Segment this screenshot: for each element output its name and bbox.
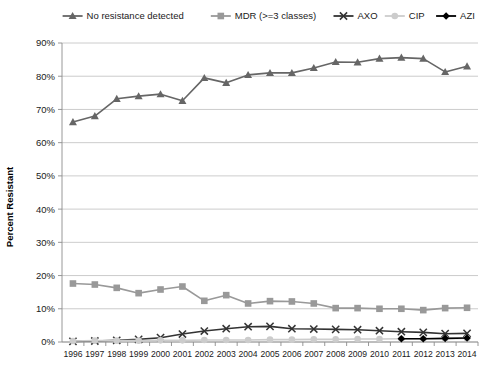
x-tick-label: 1999 — [129, 349, 148, 359]
x-tick-label: 2008 — [326, 349, 345, 359]
y-tick-label: 60% — [36, 137, 56, 148]
data-point-marker — [223, 292, 230, 299]
data-point-marker — [332, 305, 339, 312]
resistance-trend-line-chart: No resistance detectedMDR (>=3 classes)A… — [0, 0, 485, 365]
data-point-marker — [398, 305, 405, 312]
data-point-marker — [289, 336, 296, 343]
x-tick-label: 1998 — [107, 349, 126, 359]
data-point-marker — [223, 337, 230, 344]
y-tick-label: 90% — [36, 37, 56, 48]
data-point-marker — [70, 280, 77, 287]
x-tick-label: 2014 — [457, 349, 476, 359]
data-point-marker — [376, 305, 383, 312]
x-tick-label: 2002 — [195, 349, 214, 359]
y-tick-label: 50% — [36, 170, 56, 181]
data-point-marker — [310, 336, 317, 343]
data-point-marker — [267, 298, 274, 305]
legend-label: AZI — [460, 10, 475, 21]
y-tick-label: 20% — [36, 270, 56, 281]
chart-container: No resistance detectedMDR (>=3 classes)A… — [0, 0, 485, 365]
data-point-marker — [332, 336, 339, 343]
data-point-marker — [245, 300, 252, 307]
data-point-marker — [157, 286, 164, 293]
data-point-marker — [354, 305, 361, 312]
x-tick-label: 2006 — [282, 349, 301, 359]
data-point-marker — [376, 336, 383, 343]
x-tick-label: 2009 — [348, 349, 367, 359]
data-point-marker — [201, 298, 208, 305]
x-tick-label: 2001 — [173, 349, 192, 359]
data-point-marker — [92, 281, 99, 288]
data-point-marker — [464, 304, 471, 311]
x-tick-label: 2010 — [370, 349, 389, 359]
x-tick-label: 2004 — [239, 349, 258, 359]
data-point-marker — [289, 298, 296, 305]
data-point-marker — [135, 337, 142, 344]
chart-legend: No resistance detectedMDR (>=3 classes)A… — [63, 10, 475, 21]
x-tick-label: 2000 — [151, 349, 170, 359]
data-point-marker — [113, 285, 120, 292]
data-point-marker — [92, 337, 99, 344]
legend-label: MDR (>=3 classes) — [235, 10, 316, 21]
y-tick-label: 0% — [41, 336, 55, 347]
x-tick-label: 1996 — [63, 349, 82, 359]
legend-label: No resistance detected — [87, 10, 184, 21]
data-point-marker — [310, 300, 317, 307]
y-axis-title: Percent Resistant — [4, 166, 15, 247]
y-tick-label: 40% — [36, 204, 56, 215]
data-point-marker — [420, 307, 427, 314]
x-tick-label: 2013 — [436, 349, 455, 359]
x-tick-label: 2007 — [304, 349, 323, 359]
data-point-marker — [135, 290, 142, 297]
y-tick-label: 70% — [36, 104, 56, 115]
x-tick-label: 2012 — [414, 349, 433, 359]
series-line — [401, 338, 467, 339]
data-point-marker — [218, 13, 225, 20]
legend-label: AXO — [358, 10, 378, 21]
data-point-marker — [179, 283, 186, 290]
x-tick-label: 2003 — [217, 349, 236, 359]
data-point-marker — [267, 336, 274, 343]
y-tick-label: 80% — [36, 71, 56, 82]
x-tick-label: 2005 — [260, 349, 279, 359]
y-tick-label: 30% — [36, 237, 56, 248]
data-point-marker — [157, 337, 164, 344]
data-point-marker — [179, 337, 186, 344]
data-point-marker — [442, 305, 449, 312]
data-point-marker — [201, 337, 208, 344]
y-tick-label: 10% — [36, 303, 56, 314]
data-point-marker — [113, 337, 120, 344]
x-tick-label: 2011 — [392, 349, 411, 359]
data-point-marker — [392, 13, 399, 20]
data-point-marker — [70, 338, 77, 345]
data-point-marker — [354, 336, 361, 343]
legend-label: CIP — [409, 10, 425, 21]
data-point-marker — [245, 337, 252, 344]
chart-background — [0, 0, 485, 365]
x-tick-label: 1997 — [85, 349, 104, 359]
